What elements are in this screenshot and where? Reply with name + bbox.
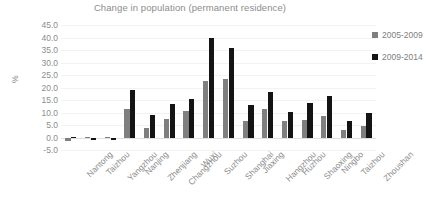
bar bbox=[307, 103, 312, 138]
y-axis-tick-label: 25.0 bbox=[41, 71, 58, 80]
bar bbox=[144, 128, 149, 138]
y-axis-tick-label: 10.0 bbox=[41, 108, 58, 117]
bar bbox=[321, 116, 326, 138]
bar bbox=[327, 96, 332, 138]
y-axis-tick-label: 5.0 bbox=[46, 121, 58, 130]
bar bbox=[105, 137, 110, 138]
bar bbox=[209, 38, 214, 137]
y-axis-title: % bbox=[10, 75, 20, 83]
bar bbox=[347, 121, 352, 137]
chart-title: Change in population (permanent residenc… bbox=[0, 2, 380, 13]
gridline bbox=[61, 75, 376, 76]
population-change-bar-chart: Change in population (permanent residenc… bbox=[0, 0, 446, 198]
legend-item: 2009-2014 bbox=[372, 48, 446, 65]
x-axis-tick-labels: NantongTaizhouYangzhouNanjingZhenjiangCh… bbox=[61, 150, 376, 198]
y-axis-tick-label: 30.0 bbox=[41, 58, 58, 67]
y-axis-tick-label: 15.0 bbox=[41, 96, 58, 105]
bar bbox=[65, 138, 70, 142]
bar bbox=[282, 121, 287, 137]
gridline bbox=[61, 63, 376, 64]
legend-item-label: 2009-2014 bbox=[382, 52, 423, 62]
y-axis-tick-label: 0.0 bbox=[46, 133, 58, 142]
chart-legend: 2005-20092009-2014 bbox=[372, 26, 446, 70]
bar bbox=[183, 111, 188, 138]
bar bbox=[248, 105, 253, 138]
y-axis-tick-label: 45.0 bbox=[41, 21, 58, 30]
y-axis-tick-labels: 45.040.035.030.025.020.015.010.05.00.0-5… bbox=[24, 25, 58, 150]
gridline bbox=[61, 50, 376, 51]
y-axis-tick-label: 35.0 bbox=[41, 46, 58, 55]
bar bbox=[262, 109, 267, 137]
y-axis-tick-label: 20.0 bbox=[41, 83, 58, 92]
bar bbox=[111, 138, 116, 141]
bar bbox=[85, 137, 90, 138]
y-axis-tick-label: 40.0 bbox=[41, 33, 58, 42]
bar bbox=[91, 138, 96, 141]
bar bbox=[288, 112, 293, 137]
x-axis-tick-label: Zhoushan bbox=[382, 150, 415, 183]
bar bbox=[268, 92, 273, 137]
bar bbox=[341, 130, 346, 137]
gridline bbox=[61, 25, 376, 26]
bar bbox=[124, 109, 129, 138]
legend-item: 2005-2009 bbox=[372, 26, 446, 43]
bar bbox=[366, 113, 371, 138]
bar bbox=[302, 120, 307, 138]
bar bbox=[229, 48, 234, 138]
gridline bbox=[61, 88, 376, 89]
bar bbox=[361, 126, 366, 137]
legend-swatch-black bbox=[372, 54, 378, 60]
bar bbox=[150, 115, 155, 137]
bar bbox=[189, 99, 194, 137]
legend-swatch-grey bbox=[372, 32, 378, 38]
bar bbox=[243, 121, 248, 138]
bar bbox=[164, 119, 169, 138]
plot-area bbox=[61, 25, 376, 150]
y-axis-tick-label: -5.0 bbox=[43, 146, 58, 155]
bar bbox=[130, 90, 135, 138]
bar bbox=[71, 137, 76, 138]
bar bbox=[203, 81, 208, 138]
bar bbox=[170, 104, 175, 138]
legend-item-label: 2005-2009 bbox=[382, 30, 423, 40]
gridline bbox=[61, 38, 376, 39]
bar bbox=[223, 79, 228, 138]
